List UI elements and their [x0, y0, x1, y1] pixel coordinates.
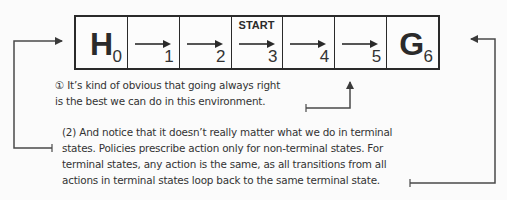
state-index: 0	[112, 47, 121, 67]
note-line: (2) And notice that it doesn’t really ma…	[62, 124, 392, 140]
note-line: states. Policies prescribe action only f…	[62, 140, 392, 156]
cell-state-5: 5	[335, 17, 387, 68]
state-index: 5	[372, 47, 381, 67]
note1-connector-arrow	[306, 82, 350, 112]
cell-state-4: 4	[283, 17, 335, 68]
note-line: terminal states, any action is the same,…	[62, 156, 392, 172]
walk-environment-grid: H 0 1 2 START 3 4 5 G 6	[74, 15, 440, 70]
cell-hole-state: H 0	[76, 17, 128, 68]
goal-label: G	[399, 26, 424, 63]
cell-goal-state: G 6	[387, 17, 438, 68]
state-index: 1	[164, 47, 173, 67]
cell-start-state: START 3	[232, 17, 284, 68]
note-line: is the best we can do in this environmen…	[55, 93, 280, 109]
hole-label: H	[90, 26, 113, 63]
state-index: 6	[424, 47, 433, 67]
note-line: actions in terminal states loop back to …	[62, 172, 392, 188]
cell-state-2: 2	[180, 17, 232, 68]
note-line: ① It’s kind of obvious that going always…	[55, 77, 280, 93]
annotation-note-1: ① It’s kind of obvious that going always…	[55, 77, 280, 109]
state-index: 4	[320, 47, 329, 67]
annotation-note-2: (2) And notice that it doesn’t really ma…	[62, 124, 392, 188]
state-index: 3	[268, 47, 277, 67]
cell-state-1: 1	[128, 17, 180, 68]
state-index: 2	[216, 47, 225, 67]
start-label: START	[239, 19, 275, 31]
